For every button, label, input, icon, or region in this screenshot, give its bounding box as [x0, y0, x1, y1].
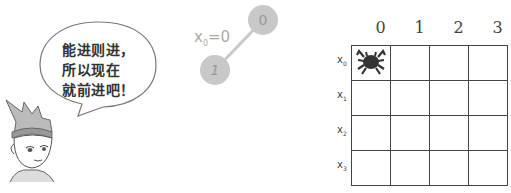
column-header-1: 1	[400, 18, 439, 37]
board-cell-3-3[interactable]	[469, 151, 508, 186]
search-tree: 0 1	[180, 0, 300, 100]
speech-line-1: 能进则进，	[62, 40, 142, 60]
board-row-1	[352, 81, 508, 116]
board-cell-2-2[interactable]	[430, 116, 469, 151]
column-header-2: 2	[439, 18, 478, 37]
board-cell-2-0[interactable]	[352, 116, 391, 151]
board-cell-0-0[interactable]	[352, 46, 391, 81]
column-header-0: 0	[361, 18, 400, 37]
board-cell-1-3[interactable]	[469, 81, 508, 116]
row-header-0: x0	[337, 54, 351, 67]
board-grid	[351, 45, 508, 186]
column-header-3: 3	[478, 18, 511, 37]
row-header-3: x3	[337, 159, 351, 172]
crab-icon	[356, 47, 386, 75]
speech-bubble-text: 能进则进， 所以现在 就前进吧！	[62, 40, 142, 100]
cartoon-character-icon	[2, 98, 67, 183]
board-cell-2-3[interactable]	[469, 116, 508, 151]
tree-node-0-label: 0	[259, 12, 268, 28]
board-cell-0-3[interactable]	[469, 46, 508, 81]
board-cell-3-1[interactable]	[391, 151, 430, 186]
speech-line-3: 就前进吧！	[62, 80, 142, 100]
board-cell-3-2[interactable]	[430, 151, 469, 186]
board-cell-3-0[interactable]	[352, 151, 391, 186]
board-row-2	[352, 116, 508, 151]
row-header-1: x1	[337, 89, 351, 102]
board-cell-1-1[interactable]	[391, 81, 430, 116]
board-cell-0-2[interactable]	[430, 46, 469, 81]
board-cell-0-1[interactable]	[391, 46, 430, 81]
speech-line-2: 所以现在	[62, 60, 142, 80]
board-cell-1-0[interactable]	[352, 81, 391, 116]
board-cell-1-2[interactable]	[430, 81, 469, 116]
row-header-2: x2	[337, 124, 351, 137]
board-row-3	[352, 151, 508, 186]
tree-node-1-label: 1	[211, 62, 220, 78]
board-cell-2-1[interactable]	[391, 116, 430, 151]
board-row-0	[352, 46, 508, 81]
